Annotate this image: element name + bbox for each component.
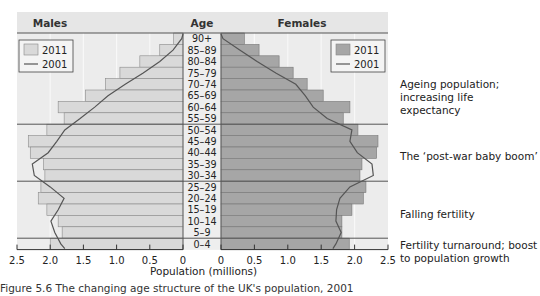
annotation-falling-fertility: Falling fertility [400, 208, 475, 221]
svg-text:70–74: 70–74 [187, 79, 216, 90]
age-labels: 90+85–8980–8475–7970–7465–6960–6455–5950… [187, 33, 216, 249]
svg-text:Age: Age [191, 17, 214, 29]
svg-text:10–14: 10–14 [187, 216, 216, 227]
svg-text:85–89: 85–89 [187, 45, 216, 56]
svg-text:2.5: 2.5 [380, 255, 396, 266]
svg-text:2011: 2011 [42, 45, 67, 56]
svg-text:2.0: 2.0 [42, 255, 58, 266]
svg-text:25–29: 25–29 [187, 182, 216, 193]
svg-text:65–69: 65–69 [187, 90, 216, 101]
svg-text:40–44: 40–44 [187, 147, 216, 158]
annotation-baby-boom: The ‘post-war baby boom’ [400, 150, 538, 163]
svg-text:5–9: 5–9 [193, 227, 210, 238]
svg-text:90+: 90+ [192, 33, 212, 44]
svg-text:45–49: 45–49 [187, 136, 216, 147]
svg-text:0.5: 0.5 [246, 255, 262, 266]
svg-text:1.5: 1.5 [75, 255, 91, 266]
svg-text:35–39: 35–39 [187, 159, 216, 170]
svg-text:2011: 2011 [354, 45, 379, 56]
legend: 20112001 [331, 40, 385, 72]
svg-text:2.5: 2.5 [9, 255, 25, 266]
svg-text:20–24: 20–24 [187, 193, 216, 204]
svg-text:80–84: 80–84 [187, 56, 216, 67]
annotation-fertility-turnaround: Fertility turnaround; boost to populatio… [400, 239, 537, 265]
svg-text:0: 0 [180, 255, 186, 266]
svg-text:15–19: 15–19 [187, 204, 216, 215]
svg-text:1.0: 1.0 [280, 255, 296, 266]
svg-text:1.0: 1.0 [109, 255, 125, 266]
svg-text:0.5: 0.5 [142, 255, 158, 266]
svg-text:50–54: 50–54 [187, 125, 216, 136]
annotation-ageing: Ageing population; increasing life expec… [400, 78, 499, 117]
svg-text:75–79: 75–79 [187, 68, 216, 79]
svg-text:30–34: 30–34 [187, 170, 216, 181]
figure-caption: Figure 5.6 The changing age structure of… [0, 282, 354, 294]
svg-text:2001: 2001 [42, 59, 67, 70]
svg-text:0: 0 [218, 255, 224, 266]
svg-text:0–4: 0–4 [193, 239, 210, 250]
x-axis-label: Population (millions) [150, 265, 257, 277]
legend: 20112001 [19, 40, 73, 72]
svg-text:60–64: 60–64 [187, 102, 216, 113]
svg-text:Males: Males [33, 17, 68, 29]
svg-text:2.0: 2.0 [347, 255, 363, 266]
svg-text:2001: 2001 [354, 59, 379, 70]
svg-text:1.5: 1.5 [313, 255, 329, 266]
svg-text:Females: Females [278, 17, 327, 29]
svg-text:55–59: 55–59 [187, 113, 216, 124]
